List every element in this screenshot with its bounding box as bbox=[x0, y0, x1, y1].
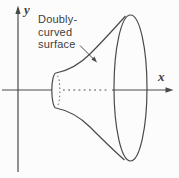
surface-mouth-ellipse bbox=[114, 15, 147, 161]
surface-bottom-curve bbox=[56, 108, 125, 160]
surface-small-rim-hidden-dotted-arc bbox=[58, 76, 60, 106]
surface-small-rim-arc bbox=[52, 73, 56, 108]
y-axis bbox=[15, 6, 20, 173]
x-axis-arrowhead-icon bbox=[166, 87, 174, 93]
annotation-line-1: Doubly- bbox=[38, 13, 77, 26]
annotation-line-3: surface bbox=[38, 38, 77, 51]
annotation-label: Doubly- curved surface bbox=[38, 13, 77, 51]
x-axis-label: x bbox=[158, 69, 165, 85]
figure-doubly-curved-surface: Doubly- curved surface y x bbox=[0, 0, 179, 178]
annotation-line-2: curved bbox=[38, 26, 77, 39]
y-axis-label: y bbox=[24, 2, 30, 18]
x-axis bbox=[2, 87, 174, 93]
y-axis-arrowhead-icon bbox=[15, 6, 20, 15]
diagram-canvas bbox=[0, 0, 179, 178]
